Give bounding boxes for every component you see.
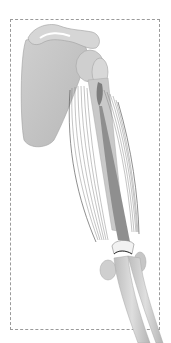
arm-anatomy-illustration [0, 0, 171, 343]
forearm-bones [114, 256, 163, 343]
scapula [21, 25, 99, 147]
